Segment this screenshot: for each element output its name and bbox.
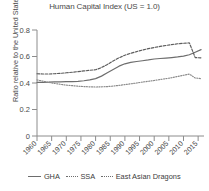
- x-tick-label: 1985: [94, 139, 112, 157]
- x-tick-label: 1975: [65, 139, 83, 157]
- x-tick-label: 1980: [79, 139, 97, 157]
- y-tick-marks: [32, 30, 37, 136]
- y-tick-label: 0.4: [20, 79, 30, 88]
- legend-entry-gha[interactable]: GHA: [28, 173, 60, 180]
- legend-label: GHA: [44, 173, 60, 180]
- legend-swatch-icon: [28, 176, 41, 177]
- legend-swatch-icon: [101, 176, 113, 177]
- plot-area: 00.20.40.60.8 19601965197019751980198519…: [0, 0, 209, 191]
- y-tick-label: 0.6: [20, 52, 30, 61]
- series-line-east-asian-dragons: [37, 43, 201, 74]
- x-tick-labels: 1960196519701975198019851990199520002005…: [21, 139, 200, 157]
- x-tick-label: 1970: [50, 139, 68, 157]
- y-tick-labels: 00.20.40.60.8: [20, 26, 30, 141]
- y-tick-label: 0.8: [20, 26, 30, 35]
- chart-figure: Human Capital Index (US = 1.0) Ratio rel…: [0, 0, 209, 191]
- series-line-ssa: [37, 74, 201, 87]
- legend-entry-east-asian-dragons[interactable]: East Asian Dragons: [101, 173, 180, 180]
- chart-legend: GHASSAEast Asian Dragons: [0, 173, 209, 180]
- y-tick-label: 0.2: [20, 105, 30, 114]
- x-tick-label: 1965: [35, 139, 53, 157]
- x-tick-label: 2010: [167, 139, 185, 157]
- legend-label: SSA: [80, 173, 95, 180]
- legend-label: East Asian Dragons: [116, 173, 181, 180]
- x-tick-label: 2005: [153, 139, 171, 157]
- y-tick-label: 0: [26, 132, 30, 141]
- x-tick-label: 1995: [123, 139, 141, 157]
- data-series: [37, 43, 201, 87]
- axes: [37, 30, 204, 136]
- x-tick-label: 1990: [109, 139, 127, 157]
- x-tick-label: 2015: [182, 139, 200, 157]
- legend-swatch-icon: [66, 176, 78, 177]
- x-tick-label: 2000: [138, 139, 156, 157]
- x-tick-label: 1960: [21, 139, 39, 157]
- legend-entry-ssa[interactable]: SSA: [66, 173, 95, 180]
- series-line-gha: [37, 50, 201, 83]
